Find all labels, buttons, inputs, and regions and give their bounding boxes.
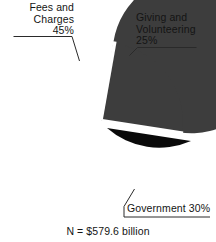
chart-caption-total: N = $579.6 billion bbox=[0, 225, 216, 237]
pie-label-giving-and-volunteering: Giving and Volunteering 25% bbox=[136, 12, 198, 47]
pie-label-fees-and-charges: Fees and Charges 45% bbox=[12, 2, 74, 37]
pie-chart-figure: Fees and Charges 45% Giving and Voluntee… bbox=[0, 0, 216, 242]
leader-line-fees-and-charges bbox=[14, 37, 80, 62]
pie-label-government: Government 30% bbox=[127, 203, 210, 215]
slice-separator-lower-left bbox=[77, 121, 101, 197]
